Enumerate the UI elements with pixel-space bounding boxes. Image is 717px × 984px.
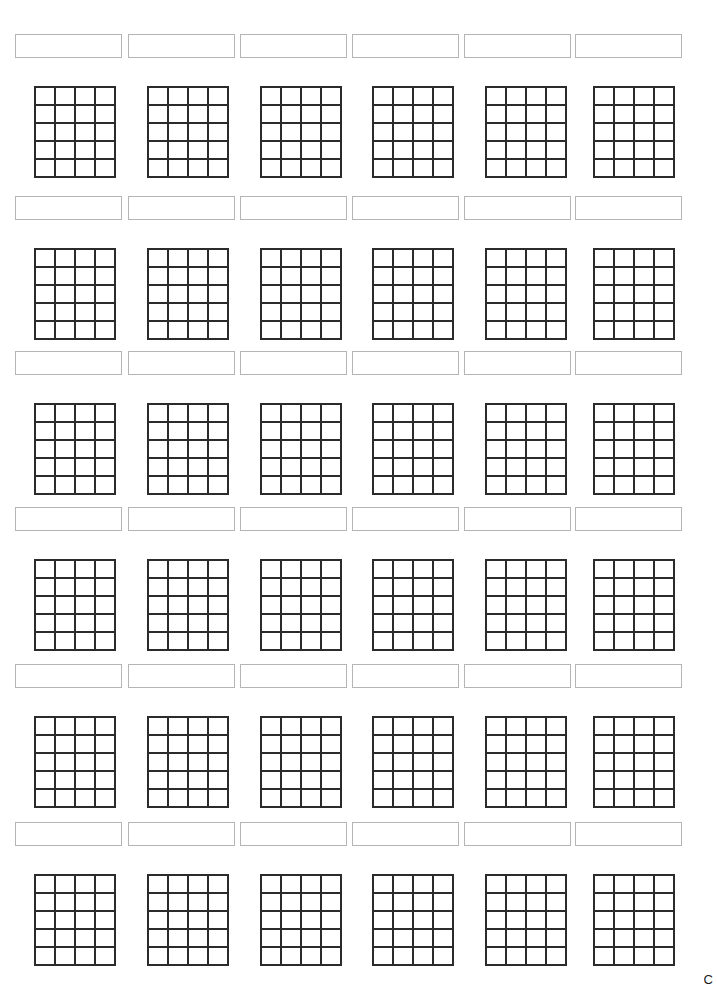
grid-cell[interactable] [281, 105, 301, 123]
grid-cell[interactable] [321, 285, 341, 303]
grid-cell[interactable] [594, 578, 614, 596]
grid-cell[interactable] [281, 87, 301, 105]
grid-cell[interactable] [393, 105, 413, 123]
grid-cell[interactable] [35, 875, 55, 893]
grid-cell[interactable] [301, 440, 321, 458]
grid-cell[interactable] [168, 440, 188, 458]
grid-cell[interactable] [301, 476, 321, 494]
grid-cell[interactable] [654, 285, 674, 303]
grid-cell[interactable] [281, 753, 301, 771]
grid-cell[interactable] [373, 404, 393, 422]
grid-cell[interactable] [208, 267, 228, 285]
grid-cell[interactable] [486, 105, 506, 123]
grid-cell[interactable] [301, 771, 321, 789]
grid-cell[interactable] [208, 458, 228, 476]
grid-cell[interactable] [594, 929, 614, 947]
grid-cell[interactable] [393, 893, 413, 911]
grid-cell[interactable] [148, 789, 168, 807]
grid-cell[interactable] [35, 141, 55, 159]
grid-cell[interactable] [373, 893, 393, 911]
grid-cell[interactable] [393, 267, 413, 285]
grid-cell[interactable] [433, 596, 453, 614]
grid-cell[interactable] [168, 578, 188, 596]
grid-cell[interactable] [75, 875, 95, 893]
grid-cell[interactable] [261, 476, 281, 494]
grid-cell[interactable] [321, 458, 341, 476]
grid-cell[interactable] [321, 404, 341, 422]
answer-grid[interactable] [147, 559, 229, 651]
grid-cell[interactable] [393, 947, 413, 965]
grid-cell[interactable] [188, 87, 208, 105]
grid-cell[interactable] [95, 476, 115, 494]
grid-cell[interactable] [614, 404, 634, 422]
answer-grid[interactable] [260, 716, 342, 808]
grid-cell[interactable] [321, 440, 341, 458]
grid-cell[interactable] [321, 771, 341, 789]
grid-cell[interactable] [261, 321, 281, 339]
grid-cell[interactable] [433, 321, 453, 339]
grid-cell[interactable] [301, 123, 321, 141]
grid-cell[interactable] [95, 717, 115, 735]
grid-cell[interactable] [546, 614, 566, 632]
grid-cell[interactable] [208, 735, 228, 753]
grid-cell[interactable] [55, 789, 75, 807]
grid-cell[interactable] [321, 105, 341, 123]
grid-cell[interactable] [634, 596, 654, 614]
answer-grid[interactable] [147, 403, 229, 495]
grid-cell[interactable] [526, 458, 546, 476]
grid-cell[interactable] [188, 404, 208, 422]
grid-cell[interactable] [301, 458, 321, 476]
grid-cell[interactable] [188, 875, 208, 893]
grid-cell[interactable] [634, 87, 654, 105]
grid-cell[interactable] [35, 789, 55, 807]
grid-cell[interactable] [208, 560, 228, 578]
grid-cell[interactable] [168, 321, 188, 339]
grid-cell[interactable] [95, 578, 115, 596]
grid-cell[interactable] [35, 771, 55, 789]
grid-cell[interactable] [281, 632, 301, 650]
grid-cell[interactable] [321, 717, 341, 735]
grid-cell[interactable] [506, 87, 526, 105]
grid-cell[interactable] [506, 735, 526, 753]
grid-cell[interactable] [281, 141, 301, 159]
grid-cell[interactable] [413, 717, 433, 735]
grid-cell[interactable] [413, 632, 433, 650]
grid-cell[interactable] [321, 560, 341, 578]
grid-cell[interactable] [373, 303, 393, 321]
grid-cell[interactable] [393, 560, 413, 578]
grid-cell[interactable] [208, 440, 228, 458]
grid-cell[interactable] [526, 422, 546, 440]
grid-cell[interactable] [373, 249, 393, 267]
grid-cell[interactable] [321, 422, 341, 440]
grid-cell[interactable] [188, 893, 208, 911]
grid-cell[interactable] [95, 404, 115, 422]
grid-cell[interactable] [168, 614, 188, 632]
grid-cell[interactable] [75, 303, 95, 321]
grid-cell[interactable] [301, 789, 321, 807]
grid-cell[interactable] [486, 249, 506, 267]
grid-cell[interactable] [55, 303, 75, 321]
label-input[interactable] [15, 196, 122, 220]
grid-cell[interactable] [413, 947, 433, 965]
grid-cell[interactable] [546, 578, 566, 596]
grid-cell[interactable] [95, 735, 115, 753]
grid-cell[interactable] [55, 267, 75, 285]
grid-cell[interactable] [208, 123, 228, 141]
grid-cell[interactable] [546, 735, 566, 753]
grid-cell[interactable] [486, 632, 506, 650]
grid-cell[interactable] [35, 87, 55, 105]
label-input[interactable] [575, 196, 682, 220]
grid-cell[interactable] [35, 123, 55, 141]
answer-grid[interactable] [372, 248, 454, 340]
answer-grid[interactable] [147, 874, 229, 966]
grid-cell[interactable] [433, 771, 453, 789]
label-input[interactable] [128, 196, 235, 220]
grid-cell[interactable] [301, 422, 321, 440]
grid-cell[interactable] [281, 578, 301, 596]
answer-grid[interactable] [593, 403, 675, 495]
grid-cell[interactable] [281, 267, 301, 285]
grid-cell[interactable] [546, 303, 566, 321]
grid-cell[interactable] [95, 303, 115, 321]
grid-cell[interactable] [301, 947, 321, 965]
grid-cell[interactable] [506, 285, 526, 303]
